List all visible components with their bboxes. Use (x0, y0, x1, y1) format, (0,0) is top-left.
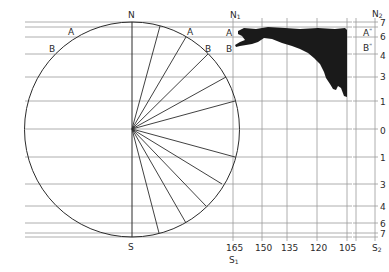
svg-text:0: 0 (380, 126, 386, 136)
panel2-y-ticks: 7 6 4 3 1 0 1 3 4 6 7 (380, 18, 386, 239)
label-n1: N1 (230, 10, 241, 20)
label-south: S (128, 242, 134, 252)
label-arc-left-b: B (49, 44, 55, 54)
label-s2: S2 (372, 243, 382, 253)
svg-text:135: 135 (281, 243, 298, 253)
svg-text:3: 3 (380, 72, 386, 82)
radial-lines (132, 26, 235, 233)
label-arc-right-b: B (205, 44, 211, 54)
svg-text:3: 3 (380, 180, 386, 190)
svg-text:120: 120 (310, 243, 327, 253)
svg-text:6: 6 (380, 219, 386, 229)
label-row-a2: A" (363, 27, 372, 38)
svg-text:105: 105 (339, 243, 356, 253)
svg-text:4: 4 (380, 202, 386, 212)
svg-text:7: 7 (380, 229, 386, 239)
label-s1: S1 (229, 255, 239, 265)
svg-text:6: 6 (380, 32, 386, 42)
label-arc-right-a: A (187, 27, 194, 37)
horizontal-gridlines (25, 22, 352, 237)
svg-text:1: 1 (380, 97, 386, 107)
label-row-b: B (226, 44, 232, 54)
svg-text:150: 150 (255, 243, 272, 253)
svg-text:7: 7 (380, 18, 386, 28)
label-row-a: A (226, 28, 233, 38)
svg-text:4: 4 (380, 51, 386, 61)
panel1-x-ticks: 165 150 135 120 105 (226, 243, 356, 253)
svg-text:1: 1 (380, 153, 386, 163)
label-north: N (128, 10, 135, 20)
label-row-b2: B" (363, 42, 372, 53)
landmass-silhouette (235, 27, 347, 97)
svg-text:165: 165 (226, 243, 243, 253)
projection-diagram: N S A B A B N1 A B 165 150 135 120 105 S… (0, 0, 389, 272)
label-arc-left-a: A (68, 27, 75, 37)
